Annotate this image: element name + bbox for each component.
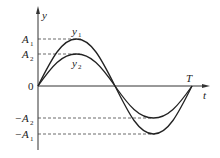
level-label-A2: A 2 bbox=[21, 48, 34, 63]
level-label-neg-A1: − A 1 bbox=[15, 128, 34, 143]
svg-text:y: y bbox=[71, 57, 77, 69]
svg-text:1: 1 bbox=[78, 31, 82, 39]
svg-text:A: A bbox=[21, 128, 29, 140]
svg-text:2: 2 bbox=[30, 55, 34, 63]
origin-label: 0 bbox=[28, 80, 34, 92]
svg-text:A: A bbox=[21, 112, 29, 124]
curve-label-y2: y 2 bbox=[71, 57, 82, 71]
level-label-neg-A2: − A 2 bbox=[15, 112, 34, 127]
x-axis-arrow-icon bbox=[202, 84, 210, 88]
svg-text:A: A bbox=[21, 48, 29, 60]
sine-wave-diagram: y t 0 T A 1 A 2 − A 2 − A 1 y 1 y 2 bbox=[0, 0, 220, 158]
y-axis-label: y bbox=[41, 9, 47, 21]
svg-text:2: 2 bbox=[30, 119, 34, 127]
svg-text:y: y bbox=[71, 25, 77, 37]
svg-text:−: − bbox=[15, 112, 21, 124]
svg-text:1: 1 bbox=[30, 40, 34, 48]
y-axis-arrow-icon bbox=[36, 6, 40, 14]
axes bbox=[38, 10, 205, 150]
svg-text:1: 1 bbox=[30, 135, 34, 143]
svg-text:2: 2 bbox=[78, 63, 82, 71]
x-axis-label: t bbox=[203, 89, 207, 101]
level-label-A1: A 1 bbox=[21, 33, 34, 48]
svg-text:A: A bbox=[21, 33, 29, 45]
svg-text:−: − bbox=[15, 128, 21, 140]
period-label: T bbox=[186, 72, 193, 84]
curve-label-y1: y 1 bbox=[71, 25, 82, 39]
